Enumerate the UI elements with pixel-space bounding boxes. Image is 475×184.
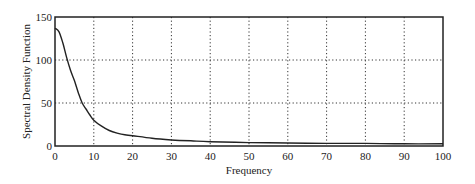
y-axis-ticks: 050100150: [36, 11, 53, 152]
x-axis-label: Frequency: [226, 164, 273, 176]
x-tick-label: 10: [88, 150, 100, 162]
x-axis-ticks: 0102030405060708090100: [52, 150, 452, 162]
y-tick-label: 150: [36, 11, 53, 23]
x-tick-label: 70: [321, 150, 333, 162]
x-tick-label: 40: [205, 150, 217, 162]
y-axis-label: Spectral Density Function: [20, 24, 32, 139]
y-tick-label: 0: [47, 140, 53, 152]
x-tick-label: 60: [282, 150, 294, 162]
x-tick-label: 100: [435, 150, 452, 162]
x-tick-label: 30: [166, 150, 178, 162]
y-tick-label: 50: [41, 97, 53, 109]
x-tick-label: 90: [399, 150, 411, 162]
spectral-density-chart: 0102030405060708090100 050100150 Frequen…: [0, 0, 475, 184]
axes-frame: [55, 17, 443, 146]
x-tick-label: 20: [127, 150, 139, 162]
x-tick-label: 0: [52, 150, 58, 162]
y-tick-label: 100: [36, 54, 53, 66]
x-tick-label: 80: [360, 150, 372, 162]
x-tick-label: 50: [244, 150, 256, 162]
grid-lines: [55, 17, 443, 146]
